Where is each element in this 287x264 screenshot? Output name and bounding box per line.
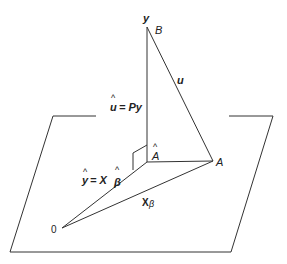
label-beta: β bbox=[148, 199, 154, 209]
label-y-hat-eq-x: = X bbox=[90, 174, 107, 186]
label-beta-hat: β bbox=[113, 176, 121, 188]
label-x: X bbox=[142, 197, 149, 208]
label-y: y bbox=[142, 12, 150, 24]
u-line bbox=[147, 27, 213, 161]
right-angle-marker bbox=[133, 145, 147, 170]
y-hat-line bbox=[62, 162, 147, 228]
label-u-hat-eq-py: = Py bbox=[119, 101, 143, 113]
label-a: A bbox=[215, 156, 223, 168]
hat-beta: ^ bbox=[115, 165, 120, 175]
label-u: u bbox=[177, 74, 184, 86]
label-B: B bbox=[155, 24, 162, 36]
least-squares-projection-diagram: y B u u ^ = Py A ^ A y ^ = X β ^ X β 0 bbox=[0, 0, 287, 264]
label-origin: 0 bbox=[51, 224, 57, 235]
plane-left-top-edge bbox=[10, 116, 273, 252]
